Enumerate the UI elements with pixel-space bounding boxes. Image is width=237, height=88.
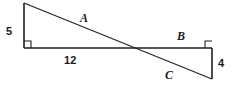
right-angle-marker-right [205,41,212,48]
geometry-diagram: 5 12 4 A B C [0,0,237,88]
label-left-leg-length: 5 [6,26,12,37]
diagram-canvas [0,0,237,88]
label-base-length: 12 [64,55,77,66]
label-right-leg-length: 4 [218,58,224,69]
right-angle-marker-left [24,41,31,48]
label-side-c: C [165,69,173,81]
label-side-a: A [80,12,88,24]
label-side-b: B [177,30,185,42]
